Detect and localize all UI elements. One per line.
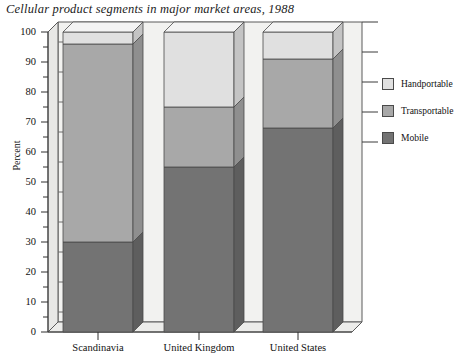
x-tick-label-scandinavia: Scandinavia	[43, 342, 153, 353]
y-tick-label: 30	[10, 236, 36, 247]
bar-segment-transportable-side	[234, 97, 244, 167]
bar-segment-handportable	[263, 32, 333, 59]
bar-segment-transportable	[63, 44, 133, 242]
bar-united-states	[263, 22, 343, 332]
plot-area: 0 10 20 30 40 50 60 70 80 90 100 Percent…	[0, 0, 465, 361]
chart-canvas	[0, 0, 465, 361]
bar-segment-mobile-side	[234, 157, 244, 332]
y-tick-label: 40	[10, 206, 36, 217]
bar-united-kingdom	[164, 22, 244, 332]
legend-label-handportable: Handportable	[401, 79, 453, 89]
y-tick-label: 90	[10, 56, 36, 67]
bar-segment-handportable-side	[234, 22, 244, 107]
bar-segment-mobile-side	[333, 118, 343, 332]
y-tick-label: 10	[10, 296, 36, 307]
y-tick-label: 0	[10, 326, 36, 337]
y-tick-label: 20	[10, 266, 36, 277]
bar-segment-handportable	[63, 32, 133, 44]
legend-item-transportable: Transportable	[382, 105, 453, 117]
bar-segment-handportable	[164, 32, 234, 107]
bar-segment-transportable	[263, 59, 333, 128]
x-tick-label-united-states: United States	[243, 342, 353, 353]
legend-label-mobile: Mobile	[401, 133, 428, 143]
bar-segment-mobile	[63, 242, 133, 332]
legend-item-mobile: Mobile	[382, 132, 453, 144]
bar-top-cap	[263, 22, 343, 32]
bar-top-cap	[164, 22, 244, 32]
chart-legend: Handportable Transportable Mobile	[382, 78, 453, 159]
legend-swatch-transportable	[382, 105, 394, 117]
bar-top-cap	[63, 22, 143, 32]
bar-segment-mobile-side	[133, 232, 143, 332]
chart-container: Cellular product segments in major marke…	[0, 0, 465, 361]
legend-item-handportable: Handportable	[382, 78, 453, 90]
bar-segment-transportable	[164, 107, 234, 167]
bar-scandinavia	[63, 22, 143, 332]
x-tick-label-united-kingdom: United Kingdom	[144, 342, 254, 353]
legend-swatch-handportable	[382, 78, 394, 90]
y-axis-title: Percent	[11, 126, 22, 186]
x-ticks	[98, 332, 298, 340]
bar-segment-mobile	[263, 128, 333, 332]
bar-segment-transportable-side	[333, 49, 343, 128]
y-ticks-right	[362, 22, 378, 142]
left-wall	[48, 22, 58, 332]
legend-label-transportable: Transportable	[401, 106, 453, 116]
y-tick-label: 100	[10, 26, 36, 37]
y-tick-label: 80	[10, 86, 36, 97]
bar-segment-transportable-side	[133, 34, 143, 242]
legend-swatch-mobile	[382, 132, 394, 144]
bar-segment-mobile	[164, 167, 234, 332]
